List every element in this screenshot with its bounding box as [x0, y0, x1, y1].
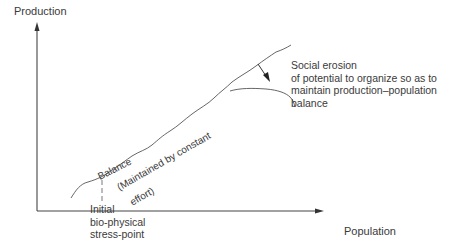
y-axis-arrow-icon [35, 22, 40, 31]
stress-point-label: Initial bio-physical stress-point [90, 203, 145, 241]
erosion-line: maintain production–population [291, 84, 437, 97]
x-axis-label: Population [344, 225, 396, 238]
eroded-branch-curve [230, 88, 295, 107]
y-axis-label: Production [14, 5, 67, 18]
diagram-graphics [0, 0, 450, 248]
stress-point-line: bio-physical [90, 216, 145, 229]
production-population-diagram: Production Population Balance (Maintaine… [0, 0, 450, 248]
stress-point-line: Initial [90, 203, 145, 216]
erosion-line: Social erosion [291, 59, 437, 72]
stress-point-line: stress-point [90, 228, 145, 241]
x-axis-arrow-icon [315, 209, 324, 214]
erosion-line: balance [291, 97, 437, 110]
erosion-line: of potential to organize so as to [291, 72, 437, 85]
erosion-label: Social erosion of potential to organize … [291, 59, 437, 109]
